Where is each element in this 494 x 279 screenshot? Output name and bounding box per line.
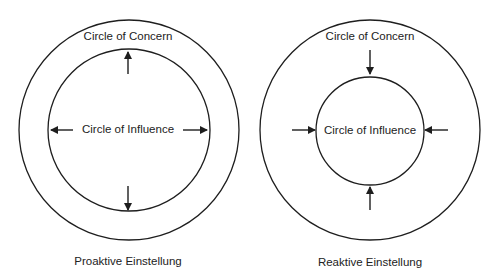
reactive-influence-label: Circle of Influence: [324, 123, 416, 137]
reactive-caption: Reaktive Einstellung: [318, 255, 422, 269]
reactive-concern-label: Circle of Concern: [326, 29, 415, 43]
proactive-concern-label: Circle of Concern: [84, 29, 173, 43]
proactive-caption: Proaktive Einstellung: [74, 254, 181, 268]
circles-comparison-diagram: Circle of Concern Circle of Influence Pr…: [0, 0, 494, 279]
diagram-graphics: [0, 0, 494, 279]
proactive-influence-label: Circle of Influence: [82, 122, 174, 136]
